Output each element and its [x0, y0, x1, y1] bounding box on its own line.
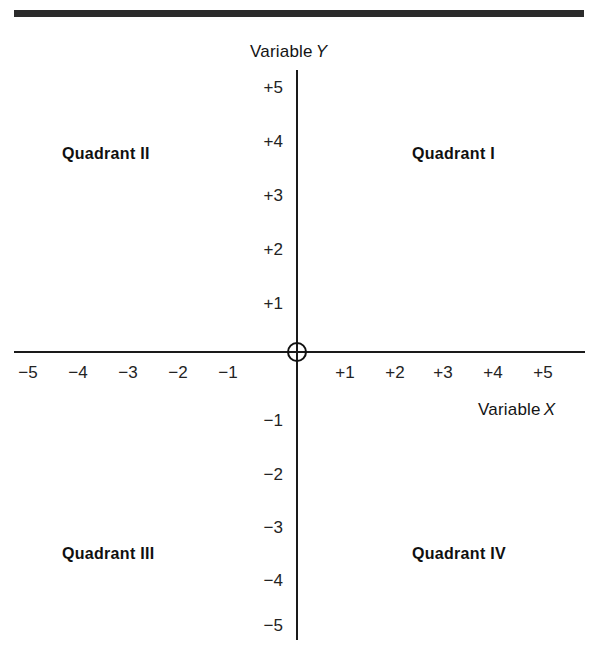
y-axis-title: VariableY [250, 42, 327, 62]
y-tick-label: −2 [223, 465, 283, 485]
quadrant-label-q2: Quadrant II [62, 145, 150, 163]
coordinate-plane-figure: VariableY VariableX +5+4+3+2+1−1−2−3−4−5… [0, 0, 598, 663]
x-tick-label: −5 [6, 363, 50, 383]
y-tick-label: +5 [223, 78, 283, 98]
x-tick-label: +4 [471, 363, 515, 383]
origin-circle-icon [287, 342, 307, 362]
x-tick-label: +5 [521, 363, 565, 383]
y-tick-label: +3 [223, 186, 283, 206]
x-tick-label: −4 [56, 363, 100, 383]
y-axis-title-letter: Y [313, 42, 328, 61]
x-tick-label: +3 [421, 363, 465, 383]
top-rule-divider [14, 10, 584, 17]
x-axis-title: VariableX [478, 400, 555, 420]
x-tick-label: −2 [156, 363, 200, 383]
y-tick-label: +1 [223, 294, 283, 314]
x-tick-label: +2 [373, 363, 417, 383]
quadrant-label-q4: Quadrant IV [412, 545, 506, 563]
y-tick-label: −5 [223, 616, 283, 636]
x-tick-label: −3 [106, 363, 150, 383]
x-tick-label: −1 [206, 363, 250, 383]
x-axis-title-letter: X [541, 400, 556, 419]
y-tick-label: −1 [223, 411, 283, 431]
x-axis-title-prefix: Variable [478, 400, 541, 419]
x-tick-label: +1 [323, 363, 367, 383]
y-tick-label: +4 [223, 132, 283, 152]
y-tick-label: −3 [223, 518, 283, 538]
quadrant-label-q1: Quadrant I [412, 145, 495, 163]
y-tick-label: −4 [223, 571, 283, 591]
y-tick-label: +2 [223, 240, 283, 260]
y-axis-title-prefix: Variable [250, 42, 313, 61]
quadrant-label-q3: Quadrant III [62, 545, 155, 563]
